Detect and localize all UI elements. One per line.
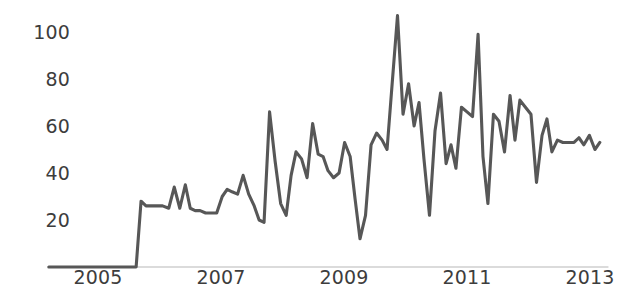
chart-svg: [0, 0, 638, 305]
x-tick-label-2007: 2007: [196, 268, 245, 287]
y-axis-tick-labels: 20406080100: [18, 0, 70, 305]
y-tick-label-80: 80: [22, 70, 70, 89]
x-tick-label-2005: 2005: [73, 268, 122, 287]
y-tick-label-40: 40: [22, 164, 70, 183]
x-tick-label-2013: 2013: [565, 268, 614, 287]
x-tick-label-2011: 2011: [442, 268, 491, 287]
plot-area: [0, 0, 638, 305]
y-tick-label-100: 100: [22, 23, 70, 42]
y-tick-label-60: 60: [22, 117, 70, 136]
y-tick-label-20: 20: [22, 211, 70, 230]
series-line-1: [49, 16, 600, 267]
line-chart: 20406080100 20052007200920112013: [0, 0, 638, 305]
x-tick-label-2009: 2009: [319, 268, 368, 287]
